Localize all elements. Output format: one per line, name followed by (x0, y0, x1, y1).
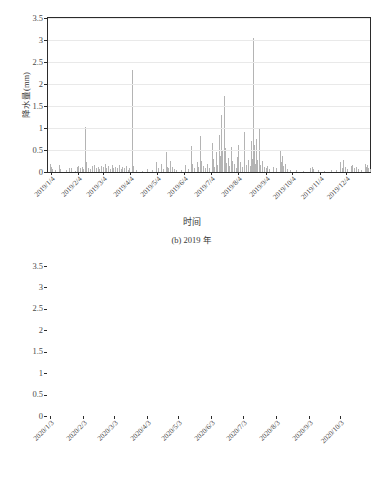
bar (194, 168, 195, 172)
y-axis-tick-label: 0 (21, 412, 43, 421)
y-axis-tick-label: 3.5 (21, 262, 43, 271)
y-axis-tick-label: 1.5 (21, 102, 43, 111)
plot-frame-2019 (47, 17, 371, 173)
y-axis-tick-label: 1 (21, 124, 43, 133)
y-axis-tick-mark (44, 395, 47, 396)
y-axis-tick-label: 0 (21, 168, 43, 177)
figure-2019: 降水量(mm) 时间 (b) 2019 年 (0, 0, 383, 250)
y-axis-tick-label: 0.5 (21, 146, 43, 155)
y-axis-tick-mark (44, 309, 47, 310)
y-axis-tick-label: 2 (21, 80, 43, 89)
y-axis-tick-mark (44, 40, 47, 41)
figure-caption-2019: (b) 2019 年 (0, 233, 383, 245)
bar (273, 167, 274, 172)
y-axis-tick-label: 1.5 (21, 347, 43, 356)
bar (313, 169, 314, 172)
y-axis-tick-mark (44, 106, 47, 107)
bar (136, 170, 137, 172)
y-axis-tick-label: 2.5 (21, 58, 43, 67)
gridline (48, 106, 370, 107)
bar (276, 168, 277, 172)
y-axis-tick-mark (44, 330, 47, 331)
y-axis-tick-mark (44, 266, 47, 267)
bar (347, 169, 348, 172)
bar (324, 171, 325, 172)
gridline (48, 62, 370, 63)
bar (205, 168, 206, 172)
bar (66, 170, 67, 172)
bar (303, 171, 304, 172)
figure-page: 降水量(mm) 时间 (b) 2019 年 降水量(mm) 时间 (c) 202… (0, 0, 383, 501)
bar-series-2019 (48, 18, 370, 172)
gridline (48, 128, 370, 129)
bar (142, 171, 143, 172)
bar (185, 165, 186, 172)
y-axis-tick-label: 3 (21, 36, 43, 45)
y-axis-tick-label: 3 (21, 283, 43, 292)
gridline (48, 40, 370, 41)
y-axis-tick-label: 3.5 (21, 14, 43, 23)
bar (174, 169, 175, 172)
y-axis-tick-mark (44, 84, 47, 85)
bar (296, 170, 297, 172)
y-axis-tick-mark (44, 18, 47, 19)
bar (176, 170, 177, 172)
bar (181, 170, 182, 172)
y-axis-tick-label: 2 (21, 326, 43, 335)
bar (163, 169, 164, 172)
bar (52, 169, 53, 172)
y-axis-tick-label: 2.5 (21, 304, 43, 313)
bar (336, 170, 337, 172)
bar (147, 169, 148, 172)
bar (361, 170, 362, 172)
y-axis-tick-mark (44, 128, 47, 129)
bar (269, 169, 270, 172)
bar (75, 171, 76, 172)
y-axis-tick-label: 0.5 (21, 390, 43, 399)
bar (287, 169, 288, 172)
bar (60, 169, 61, 172)
gridline (48, 18, 370, 19)
figure-2020: 降水量(mm) 时间 (c) 2020 年 (0, 250, 383, 501)
y-axis-tick-mark (44, 352, 47, 353)
y-axis-tick-label: 1 (21, 369, 43, 378)
bar (370, 169, 371, 172)
bar (152, 170, 153, 172)
gridline (48, 84, 370, 85)
y-axis-tick-mark (44, 373, 47, 374)
y-axis-tick-mark (44, 287, 47, 288)
bar (158, 168, 159, 172)
bar (331, 170, 332, 172)
y-axis-tick-mark (44, 416, 47, 417)
bar (358, 169, 359, 172)
bar (55, 170, 56, 172)
y-axis-tick-mark (44, 62, 47, 63)
bar (132, 70, 133, 172)
bar (188, 169, 189, 172)
bar (133, 166, 134, 172)
x-axis-label-2019: 时间 (0, 215, 383, 228)
bar (71, 168, 72, 172)
gridline (48, 150, 370, 151)
y-axis-tick-mark (44, 172, 47, 173)
bar (90, 169, 91, 172)
y-axis-tick-mark (44, 150, 47, 151)
